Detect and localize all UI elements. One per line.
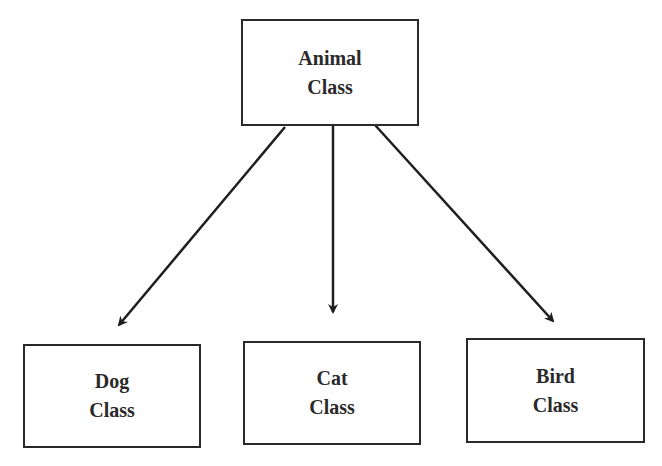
node-label-line1: Cat: [316, 364, 347, 393]
arrow-animal-to-bird: [375, 125, 553, 321]
node-cat-class: Cat Class: [243, 341, 421, 445]
node-label-line2: Class: [89, 396, 135, 425]
node-label-line2: Class: [309, 393, 355, 422]
node-label-line1: Dog: [95, 367, 129, 396]
node-animal-class: Animal Class: [241, 19, 419, 126]
node-label-line1: Animal: [298, 44, 361, 73]
node-bird-class: Bird Class: [466, 338, 645, 443]
node-label-line2: Class: [533, 391, 579, 420]
node-label-line1: Bird: [536, 362, 575, 391]
node-dog-class: Dog Class: [23, 344, 201, 448]
node-label-line2: Class: [307, 73, 353, 102]
arrow-animal-to-dog: [119, 127, 285, 325]
